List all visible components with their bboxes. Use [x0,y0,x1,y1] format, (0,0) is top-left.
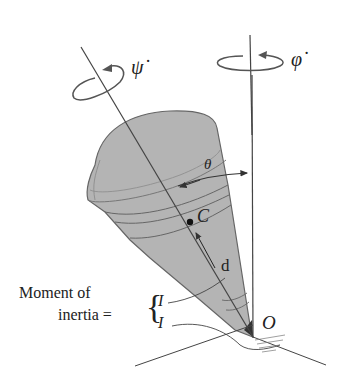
ground-line [135,325,253,366]
psi-rotation-icon [73,64,124,100]
psi-dot-label: ψ̇ [131,56,143,79]
center-of-mass-label: C [197,206,209,227]
moment-of-inertia-line2: inertia = [58,306,112,324]
distance-label: d [221,256,230,276]
pivot-label: O [262,312,276,334]
phi-dot-label: φ̇ [291,48,302,71]
center-of-mass-dot [187,219,193,225]
moment-upper-label: I [158,292,163,310]
theta-label: θ [204,156,211,173]
moment-lower-label: I [158,314,163,332]
moment-of-inertia-line1: Moment of [19,284,91,302]
